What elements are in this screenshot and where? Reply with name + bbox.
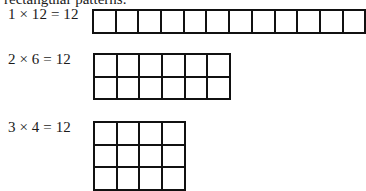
grid-cell <box>162 11 185 34</box>
equation-label-2x6: 2 × 6 = 12 <box>8 51 71 68</box>
grid-cell <box>163 78 186 101</box>
array-grid-1x12 <box>92 9 366 34</box>
grid-cell <box>140 146 163 169</box>
equation-label-3x4: 3 × 4 = 12 <box>8 119 71 136</box>
grid-cell <box>94 11 117 34</box>
grid-cell <box>118 55 141 78</box>
grid-cell <box>185 11 208 34</box>
grid-cell <box>140 168 163 191</box>
grid-cell <box>321 11 344 34</box>
grid-cell <box>118 78 141 101</box>
grid-cell <box>344 11 366 34</box>
grid-cell <box>95 123 118 146</box>
grid-cell <box>163 168 186 191</box>
grid-cell <box>298 11 321 34</box>
grid-cell <box>163 146 186 169</box>
grid-cell <box>276 11 299 34</box>
grid-cell <box>208 55 231 78</box>
grid-cell <box>139 11 162 34</box>
grid-cell <box>163 55 186 78</box>
grid-cell <box>230 11 253 34</box>
grid-cell <box>140 78 163 101</box>
array-grid-3x4 <box>93 121 186 191</box>
grid-cell <box>163 123 186 146</box>
grid-cell <box>118 168 141 191</box>
grid-cell <box>95 78 118 101</box>
grid-cell <box>95 55 118 78</box>
grid-cell <box>186 55 209 78</box>
grid-cell <box>208 78 231 101</box>
grid-cell <box>118 123 141 146</box>
grid-cell <box>253 11 276 34</box>
grid-cell <box>95 168 118 191</box>
grid-cell <box>186 78 209 101</box>
array-grid-2x6 <box>93 53 231 100</box>
grid-cell <box>207 11 230 34</box>
equation-label-1x12: 1 × 12 = 12 <box>8 6 79 23</box>
grid-cell <box>95 146 118 169</box>
grid-cell <box>140 123 163 146</box>
grid-cell <box>117 11 140 34</box>
grid-cell <box>118 146 141 169</box>
grid-cell <box>140 55 163 78</box>
